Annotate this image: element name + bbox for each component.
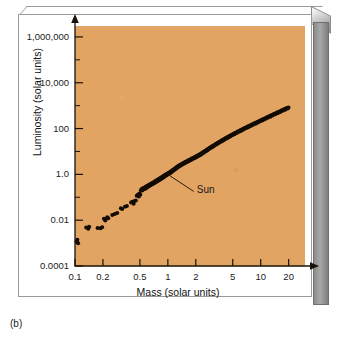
axes-group <box>71 14 319 270</box>
x-tick-label: 0.2 <box>83 271 123 282</box>
y-tick-label: 0.01 <box>0 214 69 225</box>
sun-annotation-label: Sun <box>197 184 215 195</box>
x-axis-title: Mass (solar units) <box>28 286 328 298</box>
sun-leader-line <box>168 174 194 191</box>
x-tick-label: 2 <box>176 271 216 282</box>
panel-caption: (b) <box>10 318 22 329</box>
y-axis-title: Luminosity (solar units) <box>31 27 43 177</box>
data-point-group <box>75 105 291 245</box>
x-tick-label: 20 <box>269 271 309 282</box>
sun-annotation-leader <box>168 174 194 191</box>
y-tick-label: 0.0001 <box>0 260 69 271</box>
